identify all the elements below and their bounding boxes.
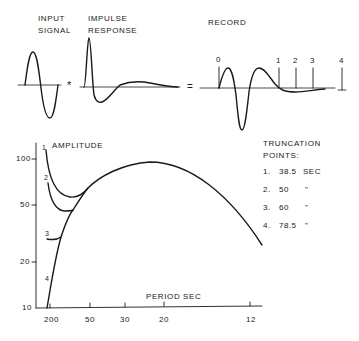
y-tick-20: 20 [20,258,30,266]
curve-label-2: 2 [44,174,49,181]
x-tick-200: 200 [44,316,59,324]
impulse-response-label-line1: IMPULSE [88,15,127,23]
record-marker-1: 1 [276,57,281,65]
impulse-response-waveform [80,38,180,102]
x-axis-label: PERIOD SEC [146,293,201,301]
y-tick-100: 100 [16,155,31,163]
truncation-unit: SEC [303,168,321,176]
truncation-value: 78.5 [279,222,297,230]
truncation-value: 50 [279,186,289,194]
y-axis-label: AMPLITUDE [52,142,103,150]
record-marker-3: 3 [310,57,315,65]
truncation-value: 60 [279,204,289,212]
truncation-unit: " [305,186,308,194]
x-tick-30: 30 [120,316,130,324]
curve-label-1: 1 [42,144,47,151]
curve-4-main [47,162,262,308]
input-signal-label-line2: SIGNAL [38,27,71,35]
curve-3 [47,237,61,240]
truncation-index: 4. [263,222,271,230]
amplitude-curves [46,150,262,308]
input-signal-waveform [18,52,61,118]
input-signal-label-line1: INPUT [38,15,65,23]
x-tick-12: 12 [246,316,256,324]
x-tick-50: 50 [85,316,95,324]
y-tick-50: 50 [20,201,30,209]
truncation-index: 1. [263,168,271,176]
graph-axes [32,143,262,308]
convolution-star-icon: * [67,80,72,91]
truncation-index: 3. [263,204,271,212]
record-waveform [200,67,346,130]
x-tick-20: 20 [159,316,169,324]
truncation-title-line1: TRUNCATION [263,140,321,148]
truncation-value: 38.5 [279,168,297,176]
truncation-unit: " [305,204,308,212]
truncation-title-line2: POINTS: [263,152,299,160]
y-tick-10: 10 [22,304,32,312]
equals-sign: = [187,82,193,92]
record-marker-2: 2 [293,57,298,65]
record-marker-0: 0 [216,56,221,64]
truncation-index: 2. [263,186,271,194]
curve-label-3: 3 [45,230,50,237]
curve-1 [46,150,88,197]
truncation-unit: " [305,222,308,230]
record-label: RECORD [208,19,246,27]
impulse-response-label-line2: RESPONSE [88,27,137,35]
record-marker-4: 4 [339,57,344,65]
curve-label-4: 4 [45,275,50,282]
